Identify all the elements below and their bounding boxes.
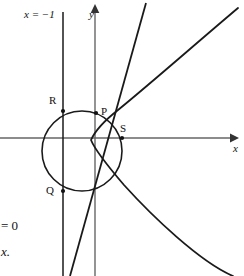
circle-shape [42, 111, 122, 191]
point-label-R: R [49, 95, 56, 106]
point-marker-Q [61, 189, 65, 193]
directrix-label: x = −1 [24, 9, 55, 20]
point-label-S: S [120, 123, 126, 134]
parabola-curve [91, 8, 238, 276]
geometry-figure: x = −1 y x P Q R S = 0 x. [0, 0, 244, 276]
cropped-trailing-text: x. [1, 245, 10, 258]
point-marker-S [120, 136, 124, 140]
point-label-Q: Q [46, 185, 54, 196]
point-marker-R [61, 109, 65, 113]
point-label-P: P [101, 106, 107, 117]
y-axis [91, 4, 100, 276]
y-axis-label: y [89, 9, 94, 20]
point-marker-P [94, 111, 98, 115]
x-axis-label: x [233, 143, 238, 154]
cropped-equation-text: = 0 [1, 219, 18, 232]
tangent-line [70, 3, 146, 276]
figure-canvas [0, 0, 244, 276]
